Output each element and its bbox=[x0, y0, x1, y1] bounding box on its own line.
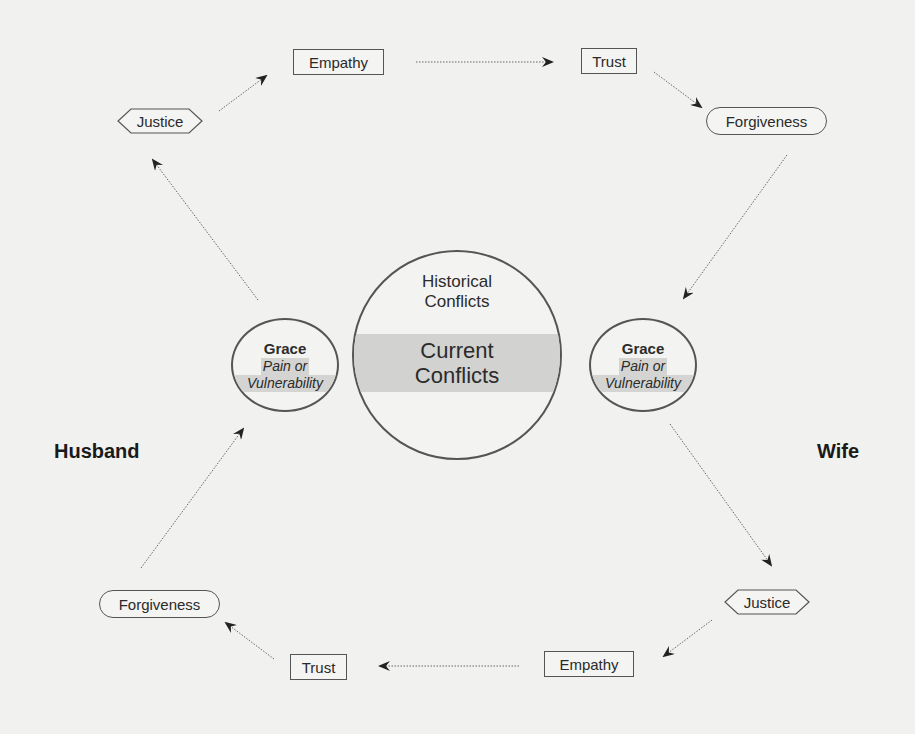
bottom-forgiveness-node: Forgiveness bbox=[99, 590, 220, 618]
justice-label: Justice bbox=[137, 113, 184, 130]
wife-grace-circle: Grace Pain or Vulnerability bbox=[589, 318, 697, 412]
bottom-justice-node: Justice bbox=[724, 589, 810, 615]
grace-title: Grace bbox=[591, 340, 695, 357]
top-empathy-node: Empathy bbox=[293, 49, 384, 75]
grace-title: Grace bbox=[233, 340, 337, 357]
bottom-empathy-node: Empathy bbox=[544, 651, 634, 677]
top-forgiveness-node: Forgiveness bbox=[706, 107, 827, 135]
bottom-trust-node: Trust bbox=[290, 654, 347, 680]
historical-conflicts: Historical Conflicts bbox=[354, 272, 560, 312]
vulnerability-label: Vulnerability bbox=[591, 375, 695, 392]
top-justice-node: Justice bbox=[117, 108, 203, 134]
pain-or-label: Pain or bbox=[261, 358, 309, 375]
vulnerability-label: Vulnerability bbox=[233, 375, 337, 392]
current-line1: Current bbox=[420, 338, 493, 363]
wife-label: Wife bbox=[817, 440, 859, 463]
justice-label: Justice bbox=[744, 594, 791, 611]
husband-label: Husband bbox=[54, 440, 140, 463]
husband-grace-circle: Grace Pain or Vulnerability bbox=[231, 318, 339, 412]
forgiveness-label: Forgiveness bbox=[119, 596, 201, 613]
pain-or-label: Pain or bbox=[619, 358, 667, 375]
trust-label: Trust bbox=[592, 53, 626, 70]
top-trust-node: Trust bbox=[581, 48, 637, 74]
current-line2: Conflicts bbox=[415, 363, 499, 388]
historical-line1: Historical bbox=[354, 272, 560, 292]
trust-label: Trust bbox=[302, 659, 336, 676]
forgiveness-label: Forgiveness bbox=[726, 113, 808, 130]
conflicts-circle: Historical Conflicts Current Conflicts bbox=[352, 250, 562, 460]
historical-line2: Conflicts bbox=[354, 292, 560, 312]
current-conflicts-band: Current Conflicts bbox=[354, 334, 560, 392]
empathy-label: Empathy bbox=[309, 54, 368, 71]
empathy-label: Empathy bbox=[559, 656, 618, 673]
